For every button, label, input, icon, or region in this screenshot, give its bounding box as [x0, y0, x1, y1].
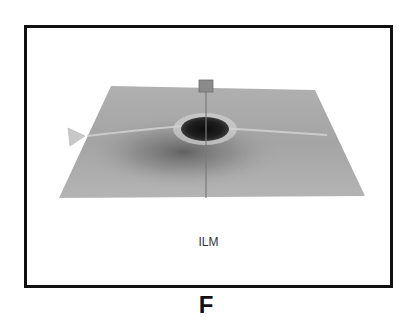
position-marker-handle[interactable] [199, 80, 213, 92]
layer-caption: ILM [27, 235, 390, 249]
side-marker-icon[interactable] [68, 128, 85, 146]
fovea-pit [181, 117, 229, 141]
figure-frame: ILM [24, 25, 393, 288]
panel-label: F [0, 291, 412, 319]
